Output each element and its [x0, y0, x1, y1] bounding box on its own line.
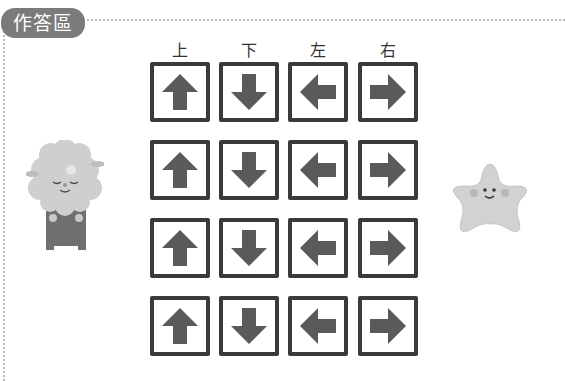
arrow-button-right[interactable]: [358, 218, 418, 278]
arrow-left-icon: [298, 72, 338, 112]
column-header-down: 下: [219, 37, 279, 61]
arrow-left-icon: [298, 228, 338, 268]
arrow-left-icon: [298, 150, 338, 190]
column-header-right: 右: [358, 37, 418, 61]
arrow-right-icon: [368, 228, 408, 268]
sheep-character: [26, 140, 104, 252]
arrow-button-right[interactable]: [358, 140, 418, 200]
arrow-button-down[interactable]: [219, 140, 279, 200]
arrow-right-icon: [368, 150, 408, 190]
arrow-right-icon: [368, 306, 408, 346]
arrow-left-icon: [298, 306, 338, 346]
arrow-button-left[interactable]: [288, 296, 348, 356]
arrow-up-icon: [160, 228, 200, 268]
arrow-button-down[interactable]: [219, 218, 279, 278]
arrow-down-icon: [229, 306, 269, 346]
arrow-button-left[interactable]: [288, 140, 348, 200]
arrow-up-icon: [160, 150, 200, 190]
arrow-down-icon: [229, 150, 269, 190]
arrow-button-up[interactable]: [150, 218, 210, 278]
arrow-button-up[interactable]: [150, 140, 210, 200]
column-header-left: 左: [288, 37, 348, 61]
arrow-up-icon: [160, 306, 200, 346]
arrow-down-icon: [229, 72, 269, 112]
arrow-button-down[interactable]: [219, 62, 279, 122]
arrow-right-icon: [368, 72, 408, 112]
star-character: [446, 160, 534, 240]
arrow-button-right[interactable]: [358, 296, 418, 356]
answer-area-tag: 作答區: [1, 8, 85, 38]
column-header-up: 上: [150, 37, 210, 61]
arrow-down-icon: [229, 228, 269, 268]
arrow-button-right[interactable]: [358, 62, 418, 122]
arrow-button-left[interactable]: [288, 62, 348, 122]
arrow-button-down[interactable]: [219, 296, 279, 356]
arrow-button-left[interactable]: [288, 218, 348, 278]
arrow-button-up[interactable]: [150, 62, 210, 122]
arrow-button-up[interactable]: [150, 296, 210, 356]
arrow-up-icon: [160, 72, 200, 112]
